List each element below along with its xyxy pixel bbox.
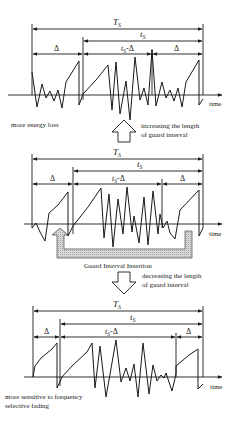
delta-left-label: Δ [50,174,55,183]
Ts-label: TS [113,17,121,28]
waveform [32,50,203,120]
ts-label: tS [137,159,143,170]
Ts-label: TS [113,147,121,158]
decrease-guard-label-line1: decreasing the length [142,272,202,280]
guard-interval-diagram: TS tS tS-Δ Δ Δ time more energy loss inc… [0,0,240,429]
delta-left-label: Δ [54,44,59,53]
ts-minus-delta-label: tS-Δ [105,327,118,337]
decrease-guard-label-line2: of guard interval [142,281,189,289]
ts-label: tS [130,312,136,323]
ts-minus-delta-label: tS-Δ [112,174,125,184]
time-axis-label: time [209,230,221,238]
ts-label: tS [140,29,146,40]
delta-right-label: Δ [180,174,185,183]
delta-right-label: Δ [186,327,191,336]
up-hollow-arrow-icon [112,120,136,142]
panel-bottom [24,306,222,397]
time-axis-label: time [210,383,222,391]
frequency-fading-annotation-line1: more sensitive to frequency [5,393,83,401]
energy-loss-annotation: more energy loss [11,121,59,129]
panel-top-labels: TS tS tS-Δ Δ Δ time more energy loss [11,17,221,129]
waveform [33,340,203,397]
delta-left-label: Δ [44,327,49,336]
delta-right-label: Δ [174,44,179,53]
ts-minus-delta-label: tS-Δ [121,44,134,54]
increase-guard-label-line1: increasing the length [141,122,200,130]
increase-guard-label-line2: of guard interval [141,131,188,139]
guard-insertion-label: Guard Interval Insertion [84,262,152,270]
Ts-label: TS [113,299,121,310]
panel-top [8,24,222,120]
frequency-fading-annotation-line2: selective fading [5,402,50,410]
time-axis-label: time [209,100,221,108]
down-hollow-arrow-icon [112,272,136,294]
